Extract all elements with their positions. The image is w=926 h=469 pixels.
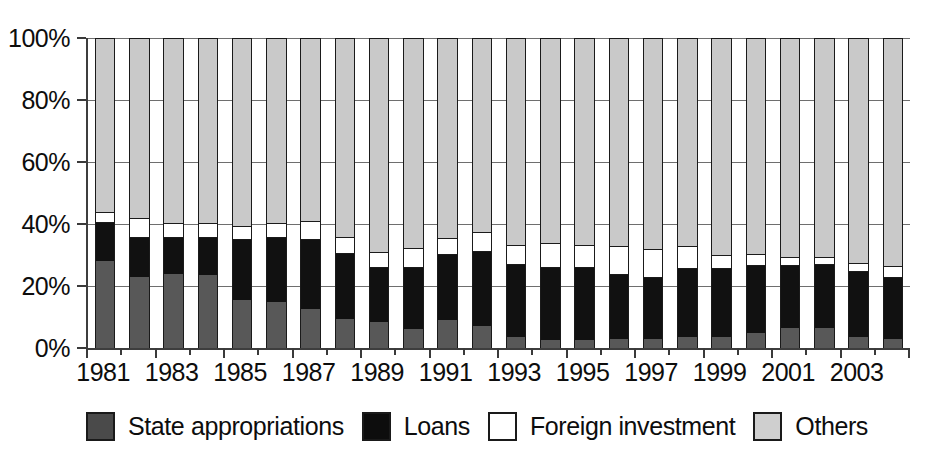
bar-slot bbox=[88, 38, 122, 348]
y-tick-mark bbox=[77, 285, 86, 287]
bar-segment-others bbox=[473, 39, 492, 232]
bar-2000[interactable] bbox=[746, 38, 767, 348]
x-tick-mark-minor bbox=[531, 348, 533, 355]
bar-1983[interactable] bbox=[163, 38, 184, 348]
bar-slot bbox=[431, 38, 465, 348]
bar-segment-state-appropriations bbox=[541, 340, 560, 348]
bar-segment-foreign-investment bbox=[644, 249, 663, 278]
bar-1995[interactable] bbox=[574, 38, 595, 348]
bar-1985[interactable] bbox=[232, 38, 253, 348]
bar-segment-foreign-investment bbox=[267, 223, 286, 238]
bar-1993[interactable] bbox=[506, 38, 527, 348]
bar-1986[interactable] bbox=[266, 38, 287, 348]
legend-label: State appropriations bbox=[128, 412, 344, 441]
x-tick-mark bbox=[429, 348, 431, 358]
bar-segment-others bbox=[712, 39, 731, 255]
bar-segment-foreign-investment bbox=[336, 237, 355, 254]
bar-segment-others bbox=[507, 39, 526, 244]
bar-segment-foreign-investment bbox=[747, 254, 766, 266]
bar-segment-loans bbox=[747, 266, 766, 332]
bar-segment-loans bbox=[541, 268, 560, 341]
bar-segment-foreign-investment bbox=[370, 252, 389, 267]
bar-segment-others bbox=[336, 39, 355, 237]
legend-swatch-foreign-investment bbox=[488, 412, 517, 441]
bar-segment-others bbox=[884, 39, 903, 266]
bar-2003[interactable] bbox=[848, 38, 869, 348]
bar-1990[interactable] bbox=[403, 38, 424, 348]
bar-1984[interactable] bbox=[198, 38, 219, 348]
bar-segment-loans bbox=[267, 238, 286, 301]
legend-item[interactable]: Loans bbox=[362, 412, 470, 441]
bar-1982[interactable] bbox=[129, 38, 150, 348]
x-tick-label: 1993 bbox=[487, 358, 541, 387]
bar-segment-state-appropriations bbox=[644, 339, 663, 348]
x-tick-mark bbox=[634, 348, 636, 358]
bar-1999[interactable] bbox=[711, 38, 732, 348]
bar-slot bbox=[739, 38, 773, 348]
x-tick-mark-minor bbox=[394, 348, 396, 355]
bar-segment-foreign-investment bbox=[678, 246, 697, 269]
bar-segment-foreign-investment bbox=[781, 257, 800, 266]
bar-segment-state-appropriations bbox=[473, 326, 492, 348]
stacked-bar-chart: 100%80%60%40%20%0% 198119831985198719891… bbox=[0, 0, 926, 469]
bar-segment-others bbox=[610, 39, 629, 246]
bar-2002[interactable] bbox=[814, 38, 835, 348]
bar-segment-state-appropriations bbox=[233, 300, 252, 348]
bar-1981[interactable] bbox=[95, 38, 116, 348]
x-tick-mark-minor bbox=[737, 348, 739, 355]
legend-swatch-others bbox=[753, 412, 782, 441]
bar-slot bbox=[362, 38, 396, 348]
bar-slot bbox=[294, 38, 328, 348]
bar-2004[interactable] bbox=[883, 38, 904, 348]
x-tick-label: 1995 bbox=[556, 358, 610, 387]
bar-segment-loans bbox=[884, 278, 903, 338]
bar-segment-state-appropriations bbox=[678, 337, 697, 348]
legend-label: Loans bbox=[404, 412, 470, 441]
bar-segment-foreign-investment bbox=[164, 223, 183, 238]
bar-1996[interactable] bbox=[609, 38, 630, 348]
x-tick-mark-minor bbox=[120, 348, 122, 355]
bar-1994[interactable] bbox=[540, 38, 561, 348]
bar-1992[interactable] bbox=[472, 38, 493, 348]
bar-slot bbox=[499, 38, 533, 348]
bar-slot bbox=[842, 38, 876, 348]
legend-item[interactable]: Foreign investment bbox=[488, 412, 735, 441]
bar-segment-foreign-investment bbox=[541, 243, 560, 268]
bar-segment-loans bbox=[610, 275, 629, 338]
bar-segment-foreign-investment bbox=[199, 223, 218, 238]
bar-2001[interactable] bbox=[780, 38, 801, 348]
legend-swatch-loans bbox=[362, 412, 391, 441]
y-tick-label: 100% bbox=[8, 24, 70, 53]
y-axis: 100%80%60%40%20%0% bbox=[0, 0, 78, 469]
y-tick-mark bbox=[77, 223, 86, 225]
legend-item[interactable]: State appropriations bbox=[86, 412, 344, 441]
bar-1991[interactable] bbox=[437, 38, 458, 348]
bar-segment-state-appropriations bbox=[301, 309, 320, 348]
x-tick-mark-minor bbox=[257, 348, 259, 355]
y-tick-label: 60% bbox=[21, 148, 70, 177]
bar-segment-others bbox=[747, 39, 766, 254]
bar-segment-state-appropriations bbox=[404, 329, 423, 348]
bar-segment-others bbox=[815, 39, 834, 257]
bar-segment-foreign-investment bbox=[815, 257, 834, 265]
bar-1998[interactable] bbox=[677, 38, 698, 348]
bar-segment-others bbox=[849, 39, 868, 263]
bar-slot bbox=[876, 38, 910, 348]
bar-segment-foreign-investment bbox=[610, 246, 629, 275]
bar-segment-foreign-investment bbox=[96, 212, 115, 223]
bar-segment-others bbox=[678, 39, 697, 246]
bar-1988[interactable] bbox=[335, 38, 356, 348]
x-tick-mark-minor bbox=[189, 348, 191, 355]
bar-1987[interactable] bbox=[300, 38, 321, 348]
bar-segment-loans bbox=[199, 238, 218, 275]
x-tick-mark bbox=[840, 348, 842, 358]
bar-segment-state-appropriations bbox=[849, 337, 868, 348]
legend-swatch-state-appropriations bbox=[86, 412, 115, 441]
legend-item[interactable]: Others bbox=[753, 412, 868, 441]
bar-1997[interactable] bbox=[643, 38, 664, 348]
x-axis-labels: 1981198319851987198919911993199519971999… bbox=[86, 358, 908, 394]
bar-segment-state-appropriations bbox=[815, 328, 834, 348]
bar-slot bbox=[259, 38, 293, 348]
bar-segment-state-appropriations bbox=[336, 319, 355, 348]
bar-1989[interactable] bbox=[369, 38, 390, 348]
